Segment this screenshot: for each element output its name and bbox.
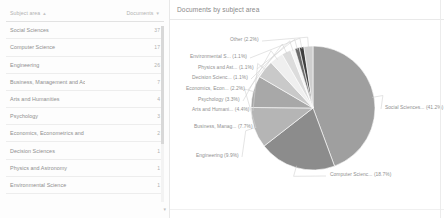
table-row[interactable]: Business, Management and Accounting 7 xyxy=(6,73,164,90)
column-header-documents-label: Documents xyxy=(126,10,153,16)
table-row[interactable]: Physics and Astronomy 1 xyxy=(6,159,164,176)
documents-by-subject-chart-panel: Documents by subject area Social Science… xyxy=(170,0,444,218)
pie-label-social-sciences: Social Sciences... (41.2%) xyxy=(385,105,443,110)
pie-label-economics: Economics, Econ... (2.2%) xyxy=(186,86,245,91)
table-row[interactable]: Decision Sciences 1 xyxy=(6,142,164,159)
column-header-documents[interactable]: Documents▼ xyxy=(85,10,164,22)
cell-subject-area: Social Sciences xyxy=(6,22,85,39)
cell-subject-area: Computer Science xyxy=(6,39,85,56)
pie-label-engineering: Engineering (9.9%) xyxy=(196,153,239,158)
cell-subject-area: Economics, Econometrics and Finance xyxy=(6,125,85,142)
pie-chart-area: Social Sciences... (41.2%) Computer Scie… xyxy=(170,20,444,218)
cell-documents: 2 xyxy=(85,125,164,142)
cell-subject-area: Decision Sciences xyxy=(6,142,85,159)
subject-area-table: Subject area▲ Documents▼ Social Sciences… xyxy=(6,10,164,194)
pie-label-decision-sciences: Decision Scienc... (1.1%) xyxy=(192,75,248,80)
cell-documents: 3 xyxy=(85,108,164,125)
sort-descending-icon[interactable]: ▼ xyxy=(156,11,160,16)
table-row[interactable]: Computer Science 17 xyxy=(6,39,164,56)
leader-line xyxy=(242,127,256,157)
table-row[interactable]: Environmental Science 1 xyxy=(6,176,164,193)
table-scrollbar-thumb[interactable] xyxy=(161,26,164,144)
cell-documents: 37 xyxy=(85,22,164,39)
analytics-panel: Subject area▲ Documents▼ Social Sciences… xyxy=(0,0,444,218)
cell-documents: 7 xyxy=(85,73,164,90)
table-row[interactable]: Psychology 3 xyxy=(6,108,164,125)
table-row[interactable]: Arts and Humanities 4 xyxy=(6,90,164,107)
panel-right-edge xyxy=(440,0,441,218)
cell-documents: 4 xyxy=(85,90,164,107)
pie-chart[interactable] xyxy=(170,20,444,218)
cell-subject-area: Physics and Astronomy xyxy=(6,159,85,176)
pie-label-business-management: Business, Manag... (7.7%) xyxy=(194,124,253,129)
cell-documents: 17 xyxy=(85,39,164,56)
pie-slice-group[interactable] xyxy=(251,46,375,170)
pie-label-other: Other (2.2%) xyxy=(230,37,259,42)
pie-label-arts-and-humanities: Arts and Humani... (4.4%) xyxy=(192,107,250,112)
cell-subject-area: Engineering xyxy=(6,56,85,73)
column-header-subject-area[interactable]: Subject area▲ xyxy=(6,10,85,22)
chart-title: Documents by subject area xyxy=(177,6,259,13)
cell-documents: 26 xyxy=(85,56,164,73)
column-header-subject-area-label: Subject area xyxy=(10,10,40,16)
pie-label-physics-and-astronomy: Physics and Ast... (1.1%) xyxy=(198,65,254,70)
subject-area-table-panel: Subject area▲ Documents▼ Social Sciences… xyxy=(0,0,170,218)
cell-subject-area: Arts and Humanities xyxy=(6,90,85,107)
table-row[interactable]: Engineering 26 xyxy=(6,56,164,73)
cell-subject-area: Psychology xyxy=(6,108,85,125)
pie-label-psychology: Psychology (3.3%) xyxy=(198,97,240,102)
sort-ascending-icon[interactable]: ▲ xyxy=(42,11,46,16)
panel-bottom-divider xyxy=(170,209,444,210)
scroll-down-icon[interactable]: ▾ xyxy=(163,207,166,212)
table-body: Social Sciences 37 Computer Science 17 E… xyxy=(6,22,164,194)
pie-label-computer-science: Computer Scienc... (18.7%) xyxy=(330,172,391,177)
table-row[interactable]: Social Sciences 37 xyxy=(6,22,164,39)
cell-documents: 1 xyxy=(85,142,164,159)
pie-label-environmental-science: Environmental S... (1.1%) xyxy=(190,54,247,59)
table-row[interactable]: Economics, Econometrics and Finance 2 xyxy=(6,125,164,142)
cell-subject-area: Environmental Science xyxy=(6,176,85,193)
cell-documents: 1 xyxy=(85,176,164,193)
table-scrollbar[interactable] xyxy=(161,26,164,202)
cell-subject-area: Business, Management and Accounting xyxy=(6,73,85,90)
cell-documents: 1 xyxy=(85,159,164,176)
table-header-row: Subject area▲ Documents▼ xyxy=(6,10,164,22)
